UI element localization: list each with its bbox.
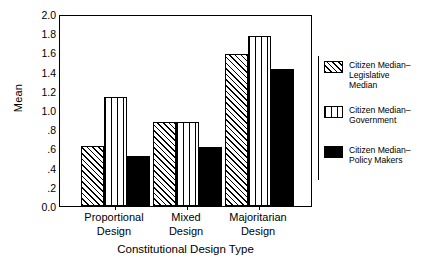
bar: [225, 54, 248, 206]
x-category-label-line: Mixed: [169, 211, 203, 225]
bar: [271, 69, 294, 206]
legend-label-line: Median: [349, 80, 411, 90]
bar: [127, 156, 150, 206]
x-category-label-line: Design: [229, 225, 286, 239]
x-category-label: MajoritarianDesign: [229, 211, 286, 238]
y-tick-label: .8: [47, 125, 56, 135]
bar: [81, 146, 104, 206]
x-tick-mark: [187, 206, 188, 210]
x-category-label: ProportionalDesign: [84, 211, 143, 238]
x-axis-category-labels: ProportionalDesignMixedDesignMajoritaria…: [59, 211, 312, 247]
legend-swatch-icon: [324, 106, 343, 118]
y-tick-label: 0.0: [41, 202, 56, 212]
y-tick-label: 2.0: [41, 10, 56, 20]
bar: [176, 122, 199, 206]
y-tick-label: .4: [47, 164, 56, 174]
bar: [153, 122, 176, 206]
legend-label-line: Government: [349, 115, 411, 125]
legend-label-line: Legislative: [349, 70, 411, 80]
bar: [104, 97, 127, 206]
legend-item: Citizen Median–Policy Makers: [324, 145, 411, 165]
bar: [248, 36, 271, 206]
x-category-label-line: Design: [169, 225, 203, 239]
x-axis-label: Constitutional Design Type: [59, 243, 312, 255]
plot-area: [59, 15, 312, 207]
bars-container: [60, 16, 311, 206]
legend-label: Citizen Median–LegislativeMedian: [349, 60, 411, 91]
legend-label-line: Policy Makers: [349, 155, 411, 165]
x-tick-mark: [115, 206, 116, 210]
legend-label-line: Citizen Median–: [349, 145, 411, 155]
y-axis-label: Mean: [12, 68, 24, 128]
bar-chart-figure: Mean 0.0.2.4.6.81.01.21.41.61.82.0 Propo…: [0, 0, 435, 267]
y-tick-label: .6: [47, 144, 56, 154]
legend-label: Citizen Median–Policy Makers: [349, 145, 411, 165]
chart-legend: Citizen Median–LegislativeMedianCitizen …: [318, 56, 435, 180]
legend-item: Citizen Median–Government: [324, 105, 411, 125]
x-category-label-line: Proportional: [84, 211, 143, 225]
y-tick-label: 1.6: [41, 48, 56, 58]
y-tick-label: .2: [47, 183, 56, 193]
legend-label-line: Citizen Median–: [349, 105, 411, 115]
x-tick-mark: [259, 206, 260, 210]
y-axis-ticks: 0.0.2.4.6.81.01.21.41.61.82.0: [26, 15, 56, 207]
legend-item: Citizen Median–LegislativeMedian: [324, 60, 411, 91]
legend-label: Citizen Median–Government: [349, 105, 411, 125]
legend-swatch-icon: [324, 146, 343, 158]
y-tick-label: 1.2: [41, 87, 56, 97]
y-tick-label: 1.4: [41, 68, 56, 78]
x-category-label-line: Design: [84, 225, 143, 239]
legend-swatch-icon: [324, 61, 343, 73]
x-category-label-line: Majoritarian: [229, 211, 286, 225]
bar: [199, 147, 222, 206]
legend-label-line: Citizen Median–: [349, 60, 411, 70]
x-category-label: MixedDesign: [169, 211, 203, 238]
y-tick-label: 1.8: [41, 29, 56, 39]
y-tick-label: 1.0: [41, 106, 56, 116]
